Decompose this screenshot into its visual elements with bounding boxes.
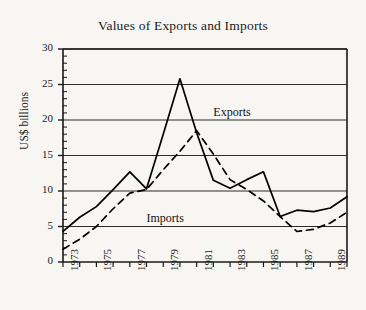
chart-container: Values of Exports and Imports US$ billio…	[0, 0, 366, 310]
series-line-imports	[63, 131, 347, 250]
plot-area	[0, 0, 366, 310]
series-annotation-imports: Imports	[147, 211, 184, 226]
series-annotation-exports: Exports	[213, 105, 250, 120]
data-series-lines	[63, 79, 347, 249]
gridlines	[63, 49, 347, 227]
